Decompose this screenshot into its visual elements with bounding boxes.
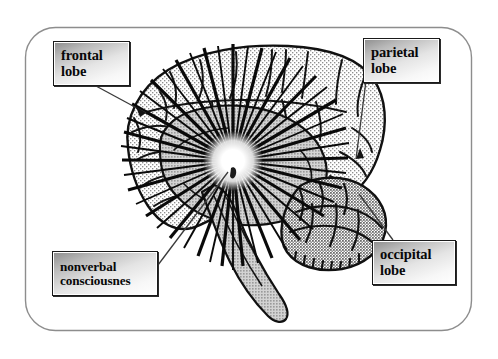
label-occipital-lobe-line2: lobe — [380, 263, 448, 278]
label-occipital-lobe[interactable]: occipital lobe — [372, 240, 456, 285]
label-nonverbal-consciousness[interactable]: nonverbal consciousnes — [52, 251, 158, 296]
cerebellum — [281, 178, 386, 275]
label-parietal-lobe[interactable]: parietal lobe — [363, 38, 440, 83]
figure-canvas: frontal lobe parietal lobe occipital lob… — [0, 0, 498, 359]
label-nonverbal-line2: consciousnes — [60, 274, 150, 288]
label-frontal-lobe[interactable]: frontal lobe — [53, 41, 130, 86]
label-parietal-lobe-line1: parietal — [371, 45, 432, 60]
label-nonverbal-line1: nonverbal — [60, 260, 150, 274]
label-frontal-lobe-line1: frontal — [61, 48, 122, 63]
label-parietal-lobe-line2: lobe — [371, 61, 432, 76]
label-frontal-lobe-line2: lobe — [61, 64, 122, 79]
label-occipital-lobe-line1: occipital — [380, 247, 448, 262]
